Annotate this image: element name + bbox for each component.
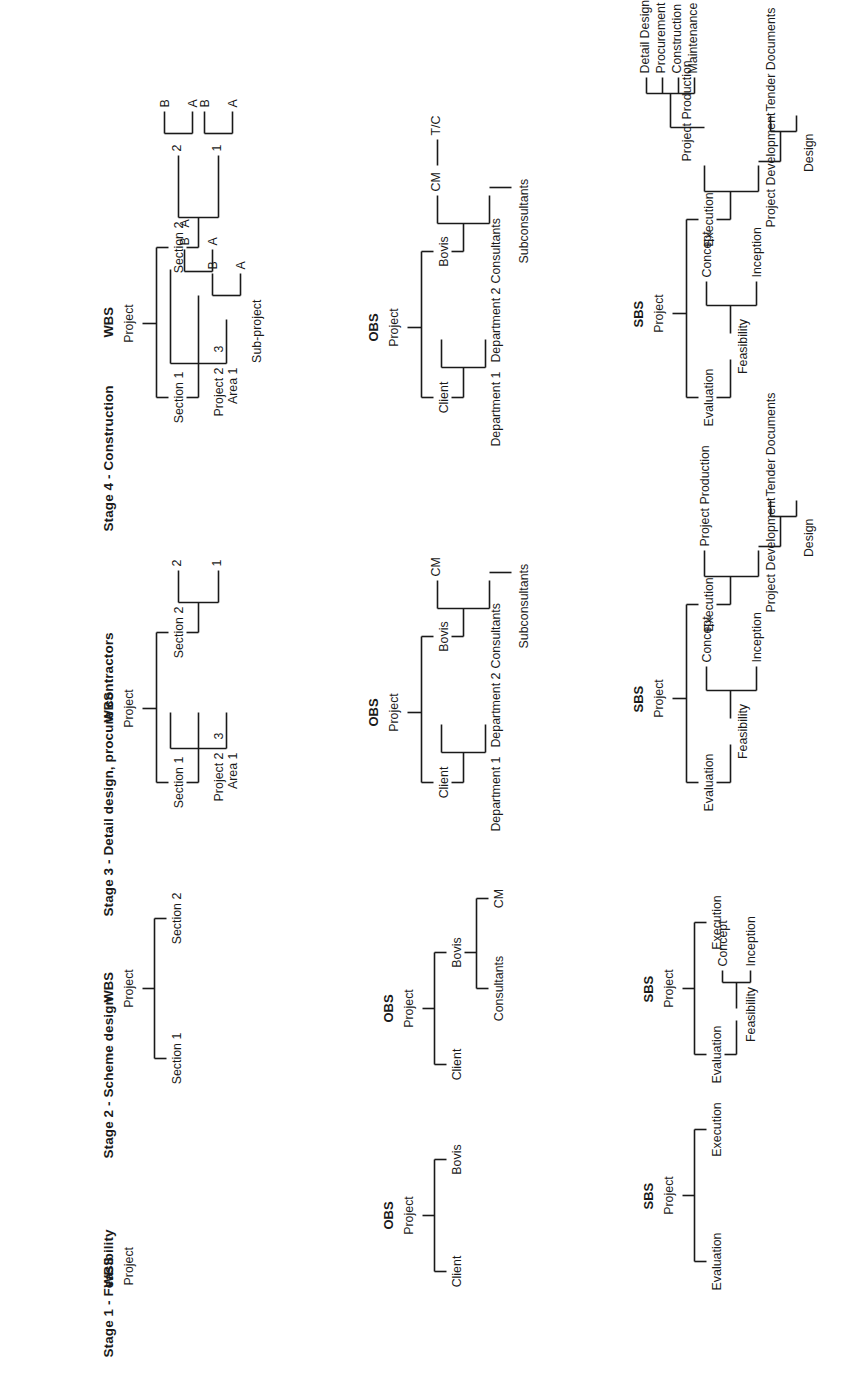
stage-4-sbs-node-procurement: Procurement bbox=[654, 2, 667, 73]
stage-4-wbs-node-section2: Section 2 bbox=[172, 221, 185, 273]
stage-4-obs-node-tc: T/C bbox=[429, 115, 442, 135]
stage-3-wbs-node-section2: Section 2 bbox=[172, 606, 185, 658]
stage-4-wbs-leaf-2: 2 bbox=[170, 144, 183, 151]
stage-3-wbs-leaf-1: 1 bbox=[210, 559, 223, 566]
stage-4-obs-node-subconsultants: Subconsultants bbox=[517, 178, 530, 263]
stage-3-sbs-node-feasibility: Feasibility bbox=[736, 703, 749, 758]
stage-4-obs-node-department-1: Department 1 bbox=[489, 371, 502, 446]
stage-4-sbs-node-detail-design: Detail Design bbox=[638, 0, 651, 73]
stage-4-wbs-sub-project2-b: B bbox=[178, 237, 191, 245]
stage-4-obs-node-department-2: Department 2 bbox=[489, 287, 502, 362]
stage-4-wbs-sub-area1-b: B bbox=[206, 261, 219, 269]
stage-3-obs-node-subconsultants: Subconsultants bbox=[517, 563, 530, 648]
stage-1-wbs-root: Project bbox=[122, 1246, 135, 1285]
stage-1-wbs-title: WBS bbox=[100, 1257, 115, 1287]
stage-3-wbs-leaf-area1: Area 1 bbox=[226, 752, 239, 789]
stage-4-wbs-sub-area1-a: A bbox=[234, 261, 247, 269]
stage-1-title: Stage 1 - Feasibility bbox=[100, 1229, 115, 1357]
stage-4-sbs-node-concept: Concept bbox=[700, 231, 713, 277]
stage-4-wbs-sub-1-a: A bbox=[226, 99, 239, 107]
stage-4-wbs-leaf-3: 3 bbox=[212, 345, 225, 352]
stage-4-wbs-leaf-project2: Project 2 bbox=[212, 367, 225, 416]
stage-4-sbs-node-evaluation: Evaluation bbox=[702, 368, 715, 426]
stage-2-obs-node-client: Client bbox=[450, 1048, 463, 1080]
stage-1-obs-node-client: Client bbox=[450, 1255, 463, 1287]
stage-3-sbs-node-evaluation: Evaluation bbox=[702, 753, 715, 811]
stage-2-sbs-node-evaluation: Evaluation bbox=[710, 1025, 723, 1083]
stage-3-obs-node-department-2: Department 2 bbox=[489, 672, 502, 747]
stage-4-wbs-node-section1: Section 1 bbox=[172, 371, 185, 423]
stage-3-obs-node-bovis: Bovis bbox=[437, 621, 450, 651]
stage-4-wbs-links bbox=[100, 23, 340, 423]
stage-3-obs-links bbox=[365, 508, 555, 808]
stage-3-wbs-leaf-2: 2 bbox=[170, 559, 183, 566]
stage-4-sbs-node-project-development: Project Development bbox=[764, 112, 777, 227]
stage-4-sbs-node-design: Design bbox=[802, 133, 815, 172]
document-page: Stage 1 - Feasibility WBS Project OBS Pr… bbox=[0, 0, 859, 1395]
stage-4-sbs-node-construction: Construction bbox=[670, 3, 683, 73]
stage-4-wbs-sub-1-b: B bbox=[198, 99, 211, 107]
stage-4-obs-node-cm: CM bbox=[429, 172, 442, 191]
stage-2-obs-node-consultants: Consultants bbox=[492, 955, 505, 1020]
stage-3-sbs-node-concept: Concept bbox=[700, 616, 713, 662]
stage-3-obs-node-department-1: Department 1 bbox=[489, 756, 502, 831]
stage-3-block: Stage 3 - Detail design, procure contrac… bbox=[0, 510, 859, 930]
stage-4-sbs-node-maintenance: Maintenance bbox=[686, 2, 699, 73]
stage-3-wbs-leaf-3: 3 bbox=[212, 732, 225, 739]
stage-4-sbs-node-project-production: Project Production bbox=[680, 60, 693, 161]
stage-4-obs-node-bovis: Bovis bbox=[437, 236, 450, 266]
stage-3-wbs-leaf-project2: Project 2 bbox=[212, 752, 225, 801]
stage-2-sbs-node-feasibility: Feasibility bbox=[744, 986, 757, 1041]
stage-2-obs-node-bovis: Bovis bbox=[450, 937, 463, 967]
stage-1-sbs-node-evaluation: Evaluation bbox=[710, 1232, 723, 1290]
stage-4-wbs-leaf-area1: Area 1 bbox=[226, 367, 239, 404]
stage-4-sbs-node-inception: Inception bbox=[750, 227, 763, 277]
stage-2-wbs-node-section1: Section 1 bbox=[170, 1032, 183, 1084]
stage-3-obs-node-consultants: Consultants bbox=[489, 603, 502, 668]
stage-3-obs-node-cm: CM bbox=[429, 557, 442, 576]
stage-4-obs-node-consultants: Consultants bbox=[489, 218, 502, 283]
stage-3-wbs-node-section1: Section 1 bbox=[172, 756, 185, 808]
stage-3-sbs-node-inception: Inception bbox=[750, 612, 763, 662]
stage-4-wbs-sub-2-b: B bbox=[158, 99, 171, 107]
stage-3-obs-node-client: Client bbox=[437, 766, 450, 798]
stage-4-wbs-sub-2-a: A bbox=[186, 99, 199, 107]
stage-4-block: Stage 4 - Construction WBS Project bbox=[0, 0, 859, 545]
stage-4-wbs-sub-project2-a: A bbox=[206, 237, 219, 245]
stage-4-sbs-node-tender-documents: Tender Documents bbox=[764, 7, 777, 111]
stage-4-wbs-subproject-label: Sub-project bbox=[250, 299, 263, 362]
stage-4-wbs-sub-3-a: A bbox=[178, 219, 191, 227]
stage-4-sbs-node-feasibility: Feasibility bbox=[736, 318, 749, 373]
stage-4-wbs-leaf-1: 1 bbox=[210, 144, 223, 151]
stage-4-obs-node-client: Client bbox=[437, 381, 450, 413]
